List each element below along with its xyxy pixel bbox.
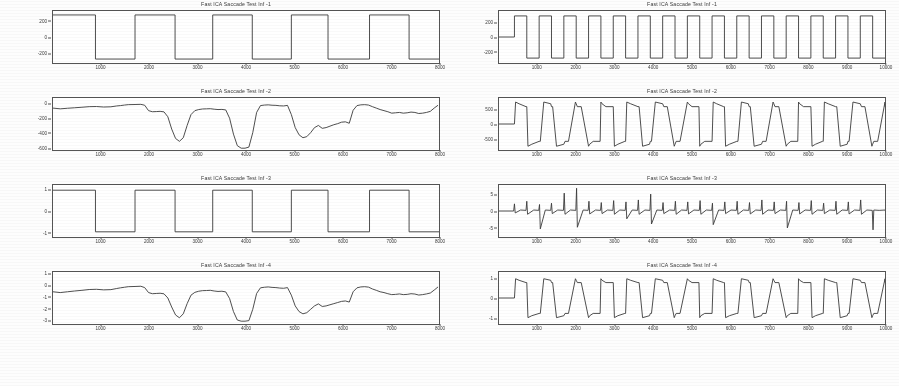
subplot-right-2: Fast ICA Saccade Test Inf -2 5000-500 10… (462, 87, 899, 173)
plot-area (498, 97, 886, 151)
plot-area (52, 184, 440, 238)
x-tick-label: 2000 (570, 152, 580, 157)
trace-svg (499, 11, 885, 63)
subplot-right-1: Fast ICA Saccade Test Inf -1 2000-200 10… (462, 0, 899, 86)
x-tick-label: 5000 (289, 239, 299, 244)
signal-trace (499, 188, 885, 230)
x-tick-label: 7000 (764, 239, 774, 244)
y-tick-label: 1 (44, 187, 47, 192)
plot-area (52, 97, 440, 151)
axes-box (498, 97, 886, 151)
x-tick-label: 4000 (241, 65, 251, 70)
x-tick-label: 1000 (532, 239, 542, 244)
trace-svg (53, 98, 439, 150)
x-tick-label: 6000 (726, 152, 736, 157)
x-tick-label: 3000 (192, 239, 202, 244)
axes-box (52, 184, 440, 238)
subplot-column-right: Fast ICA Saccade Test Inf -1 2000-200 10… (462, 0, 899, 386)
x-tick-label: 10000 (880, 152, 893, 157)
x-tick-label: 7000 (764, 152, 774, 157)
trace-svg (53, 272, 439, 324)
trace-svg (499, 98, 885, 150)
y-tick-label: 0 (44, 35, 47, 40)
x-tick-label: 8000 (435, 152, 445, 157)
y-axis-ticks: 10-1 (16, 184, 50, 238)
x-tick-label: 5000 (687, 239, 697, 244)
x-tick-label: 3000 (609, 239, 619, 244)
subplot-left-1: Fast ICA Saccade Test Inf -1 2000-200 10… (16, 0, 456, 86)
x-axis-ticks: 10002000300040005000600070008000 (52, 239, 440, 248)
x-tick-label: 10000 (880, 326, 893, 331)
x-tick-label: 4000 (648, 65, 658, 70)
x-tick-label: 9000 (842, 152, 852, 157)
trace-svg (499, 272, 885, 324)
y-tick-label: -2 (43, 306, 47, 311)
y-tick-label: 0 (490, 35, 493, 40)
signal-trace (53, 104, 438, 148)
y-axis-ticks: 5000-500 (462, 97, 496, 151)
y-tick-label: 0 (490, 296, 493, 301)
axes-box (52, 271, 440, 325)
y-tick-label: -500 (484, 137, 493, 142)
x-axis-ticks: 1000200030004000500060007000800090001000… (498, 239, 886, 248)
x-tick-label: 6000 (726, 239, 736, 244)
x-tick-label: 1000 (95, 239, 105, 244)
axes-box (52, 10, 440, 64)
x-tick-label: 2000 (570, 239, 580, 244)
axes-box (498, 10, 886, 64)
y-tick-label: 0 (490, 209, 493, 214)
plot-area (52, 10, 440, 64)
trace-svg (499, 185, 885, 237)
x-tick-label: 9000 (842, 239, 852, 244)
y-tick-label: 0 (490, 122, 493, 127)
y-tick-label: -200 (38, 116, 47, 121)
x-tick-label: 8000 (435, 65, 445, 70)
y-tick-label: -1 (43, 294, 47, 299)
x-tick-label: 4000 (648, 152, 658, 157)
x-tick-label: 1000 (95, 152, 105, 157)
x-tick-label: 2000 (144, 65, 154, 70)
x-tick-label: 6000 (726, 326, 736, 331)
x-tick-label: 7000 (764, 65, 774, 70)
x-tick-label: 3000 (609, 65, 619, 70)
y-axis-ticks: 2000-200 (16, 10, 50, 64)
plot-area (498, 10, 886, 64)
x-tick-label: 2000 (144, 239, 154, 244)
x-tick-label: 8000 (803, 326, 813, 331)
y-tick-label: -3 (43, 318, 47, 323)
plot-area (498, 271, 886, 325)
y-tick-label: 1 (44, 271, 47, 276)
x-tick-label: 8000 (803, 239, 813, 244)
x-tick-label: 4000 (648, 239, 658, 244)
x-tick-label: 3000 (609, 326, 619, 331)
y-tick-label: -5 (489, 225, 493, 230)
y-tick-label: 0 (44, 283, 47, 288)
y-tick-label: -1 (43, 230, 47, 235)
x-tick-label: 3000 (192, 152, 202, 157)
x-tick-label: 2000 (570, 65, 580, 70)
y-tick-label: -600 (38, 146, 47, 151)
signal-trace (53, 15, 439, 59)
x-tick-label: 3000 (192, 326, 202, 331)
x-tick-label: 1000 (532, 65, 542, 70)
x-tick-label: 5000 (289, 326, 299, 331)
subplot-title: Fast ICA Saccade Test Inf -3 (462, 174, 899, 182)
x-tick-label: 6000 (338, 239, 348, 244)
x-tick-label: 7000 (386, 326, 396, 331)
y-tick-label: -400 (38, 130, 47, 135)
axes-box (52, 97, 440, 151)
x-tick-label: 4000 (241, 152, 251, 157)
x-tick-label: 8000 (435, 239, 445, 244)
x-tick-label: 10000 (880, 65, 893, 70)
y-axis-ticks: 10-1-2-3 (16, 271, 50, 325)
y-tick-label: 0 (44, 209, 47, 214)
y-axis-ticks: 10-1 (462, 271, 496, 325)
subplot-right-4: Fast ICA Saccade Test Inf -4 10-1 100020… (462, 261, 899, 347)
x-tick-label: 2000 (570, 326, 580, 331)
x-tick-label: 3000 (192, 65, 202, 70)
x-tick-label: 5000 (687, 65, 697, 70)
subplot-column-left: Fast ICA Saccade Test Inf -1 2000-200 10… (16, 0, 456, 386)
subplot-left-2: Fast ICA Saccade Test Inf -2 0-200-400-6… (16, 87, 456, 173)
x-axis-ticks: 1000200030004000500060007000800090001000… (498, 65, 886, 74)
x-tick-label: 8000 (435, 326, 445, 331)
